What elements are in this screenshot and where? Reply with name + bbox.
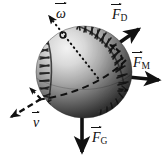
magnus-force-symbol: F [133,55,142,70]
diagram-canvas [0,0,164,162]
drag-force-symbol: F [112,7,121,22]
velocity-symbol: v [33,115,39,130]
drag-force-label: FD [112,8,127,24]
magnus-force-subscript: M [142,61,150,71]
drag-force-subscript: D [121,13,128,23]
baseball [36,20,132,118]
baseball-force-diagram: ω FD FM FG v [0,0,164,162]
gravity-force-subscript: G [101,136,108,146]
velocity-label: v [33,116,39,130]
gravity-force-label: FG [92,131,107,147]
magnus-force-label: FM [133,56,150,72]
omega-symbol: ω [56,6,66,21]
gravity-force-symbol: F [92,130,101,145]
omega-label: ω [56,7,66,21]
